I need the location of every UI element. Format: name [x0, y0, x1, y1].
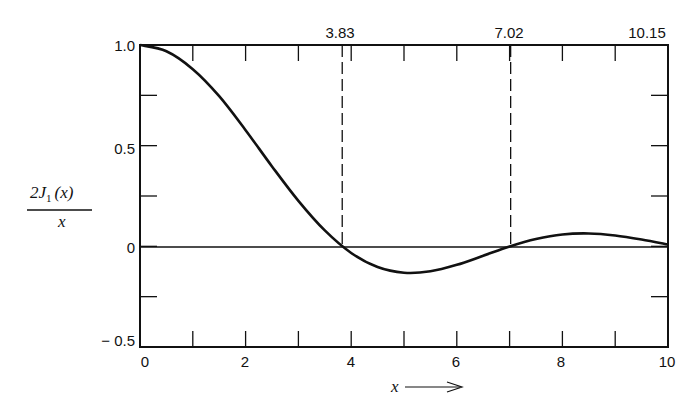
y-tick-label: − 0.5: [101, 332, 135, 349]
x-tick-label: 2: [241, 353, 249, 370]
svg-text:2J1(x): 2J1(x): [30, 183, 74, 204]
bessel-curve: [140, 45, 668, 273]
x-tick-label: 4: [347, 353, 355, 370]
x-tick-label: 8: [557, 353, 565, 370]
bessel-chart: 0 2 4 6 8 10 1.0 0.5 0 − 0.5 3.83 7.02 1…: [0, 0, 698, 408]
ylabel-denominator: x: [57, 212, 66, 231]
ylabel-argument: (x): [55, 183, 74, 202]
ylabel-subscript: 1: [46, 192, 52, 204]
top-annotation: 3.83: [325, 24, 354, 41]
ylabel-numerator: 2J: [30, 183, 48, 202]
x-tick-label: 10: [659, 353, 676, 370]
y-tick-label: 0: [127, 239, 135, 256]
y-tick-label: 1.0: [114, 37, 135, 54]
y-axis-label: 2J1(x) x: [27, 183, 92, 231]
xlabel-text: x: [390, 377, 399, 396]
plot-frame: [140, 45, 668, 347]
x-ticks: [193, 45, 615, 347]
y-tick-label: 0.5: [114, 140, 135, 157]
top-annotation: 10.15: [628, 24, 666, 41]
x-tick-label: 6: [452, 353, 460, 370]
x-tick-label: 0: [141, 353, 149, 370]
top-annotation: 7.02: [494, 24, 523, 41]
x-axis-label: x: [390, 377, 462, 396]
y-ticks: [140, 95, 668, 296]
